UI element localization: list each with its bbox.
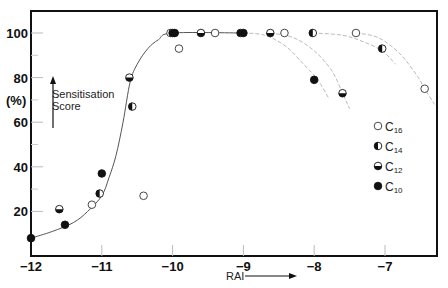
data-point-c12 <box>56 205 64 213</box>
data-point-c10 <box>310 76 318 84</box>
x-tick-label: −10 <box>162 259 184 274</box>
data-point-c16 <box>175 45 183 53</box>
data-point-c16 <box>352 29 360 37</box>
legend-label-c14: C14 <box>385 140 403 155</box>
x-tick-label: −7 <box>378 259 393 274</box>
x-tick-label: −8 <box>307 259 322 274</box>
data-point-c14 <box>378 45 386 53</box>
chart: 20406080100 −12−11−10−9−8−7 Sensitisatio… <box>0 0 448 288</box>
data-point-c10 <box>61 221 69 229</box>
x-axis-arrow-icon <box>245 273 297 279</box>
legend-label-c10: C10 <box>385 180 403 195</box>
data-point-c16 <box>421 85 429 93</box>
data-point-c14 <box>309 29 317 37</box>
legend-marker-c10-icon <box>374 182 382 190</box>
data-point-c10 <box>171 29 179 37</box>
y-tick-label: 40 <box>14 160 28 175</box>
data-point-c14 <box>128 103 136 111</box>
y-axis-ticks: 20406080100 <box>6 26 43 219</box>
data-point-c16 <box>140 192 148 200</box>
legend-label-c12: C12 <box>385 160 403 175</box>
data-point-c10 <box>240 29 248 37</box>
curve-C10-decline <box>243 33 328 98</box>
x-tick-label: −11 <box>91 259 112 274</box>
legend-label-c16: C16 <box>385 120 403 135</box>
y-tick-label: 100 <box>6 26 28 41</box>
x-tick-label: −12 <box>20 259 42 274</box>
data-point-c12 <box>267 29 275 37</box>
x-axis-label: RAI <box>226 270 244 282</box>
data-point-c10 <box>27 234 35 242</box>
data-point-c14 <box>96 190 104 198</box>
y-tick-label: 60 <box>14 115 28 130</box>
data-points <box>27 29 428 242</box>
data-point-c12 <box>197 29 205 37</box>
plot-frame <box>31 11 437 256</box>
legend-marker-c16-icon <box>374 122 382 130</box>
legend-marker-c14-icon <box>374 142 382 150</box>
data-point-c16 <box>88 201 96 209</box>
data-point-c16 <box>211 29 219 37</box>
legend: C16C14C12C10 <box>374 120 403 195</box>
y-tick-label: 20 <box>14 204 28 219</box>
data-point-c12 <box>126 74 134 82</box>
y-tick-label: 80 <box>14 71 28 86</box>
x-axis-ticks: −12−11−10−9−8−7 <box>20 245 392 274</box>
y-axis-unit: (%) <box>6 93 26 108</box>
legend-marker-c12-icon <box>374 162 382 170</box>
y-axis-label-line1: Sensitisation <box>52 88 114 100</box>
y-axis-label-line2: Score <box>52 100 81 112</box>
data-point-c16 <box>281 29 289 37</box>
data-point-c10 <box>98 170 106 178</box>
data-point-c12 <box>339 89 347 97</box>
